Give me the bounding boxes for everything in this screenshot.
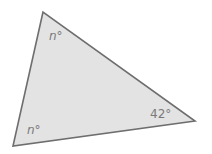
angle-label-bottom-left: n° — [27, 123, 41, 137]
triangle-diagram: n° n° 42° — [0, 0, 212, 154]
angle-label-top: n° — [49, 29, 63, 43]
angle-label-right: 42° — [150, 107, 171, 121]
